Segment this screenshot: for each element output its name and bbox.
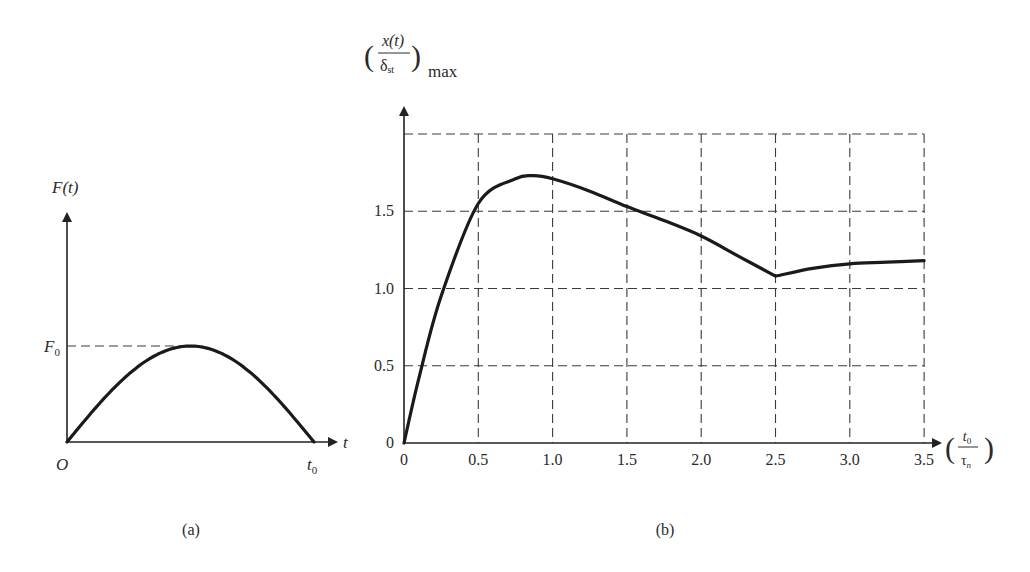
svg-text:t0: t0: [963, 429, 972, 446]
plot-b-y-tick-label: 1.5: [374, 202, 394, 219]
plot-b-x-tick-label: 2.0: [691, 451, 711, 468]
plot-b-x-tick-label: 2.5: [766, 451, 786, 468]
plot-a-caption: (a): [182, 521, 200, 539]
plot-a-f0-label: F0: [43, 337, 60, 358]
plot-b-y-tick-label: 0: [386, 434, 394, 451]
svg-text:): ): [411, 39, 421, 73]
plot-b-x-tick-labels: 00.51.01.52.02.53.03.5: [400, 451, 934, 468]
plot-b-x-tick-label: 1.5: [617, 451, 637, 468]
svg-text:δst: δst: [380, 57, 394, 75]
svg-text:): ): [984, 431, 994, 465]
plot-b-x-tick-label: 0: [400, 451, 408, 468]
figure: F(t) F0 O t t0 (a) 00.51.01.52.02.53.03.…: [0, 0, 1030, 572]
plot-b-x-label: ( t0 τn ): [945, 429, 994, 470]
svg-text:τn: τn: [961, 453, 972, 470]
plot-b-grid: [404, 134, 924, 443]
plot-a-t0-label: t0: [307, 455, 318, 476]
plot-b-y-tick-label: 1.0: [374, 280, 394, 297]
svg-text:max: max: [428, 62, 458, 81]
plot-a-origin-label: O: [56, 455, 68, 474]
plot-b-x-tick-label: 3.0: [840, 451, 860, 468]
svg-text:(: (: [945, 431, 955, 465]
plot-b-y-label: ( x(t) δst ) max: [364, 32, 458, 81]
plot-b: 00.51.01.52.02.53.03.5 00.51.01.5 ( x(t)…: [364, 32, 994, 539]
plot-b-response-curve: [404, 175, 924, 443]
plot-b-y-tick-labels: 00.51.01.5: [374, 202, 394, 451]
plot-b-y-tick-label: 0.5: [374, 357, 394, 374]
plot-a-y-label: F(t): [51, 178, 79, 197]
svg-text:(: (: [364, 39, 374, 73]
svg-text:x(t): x(t): [381, 32, 404, 50]
plot-a-force-pulse-curve: [67, 346, 314, 442]
plot-b-caption: (b): [656, 521, 675, 539]
plot-a-t-axis-label: t: [343, 433, 349, 452]
plot-b-x-tick-label: 0.5: [468, 451, 488, 468]
plot-a: F(t) F0 O t t0 (a): [43, 178, 349, 539]
plot-b-x-tick-label: 1.0: [543, 451, 563, 468]
plot-b-x-tick-label: 3.5: [914, 451, 934, 468]
